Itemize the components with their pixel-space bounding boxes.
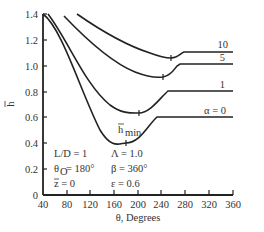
chart: 0 0.2 0.4 0.6 0.8 1.0 1.2 1.4 40 80 120 … (0, 0, 264, 232)
x-tick-label: 120 (82, 199, 98, 210)
x-tick-label: 80 (62, 199, 73, 210)
x-axis-label: θ, Degrees (116, 212, 161, 223)
x-tick-labels: 40 80 120 160 200 240 280 320 360 (38, 199, 241, 210)
curve-alpha-0 (43, 14, 233, 144)
hmin-annotation: h min (118, 124, 142, 138)
y-tick-label: 0.8 (25, 87, 38, 98)
y-axis-label: h (5, 101, 16, 107)
ld-annotation: L/D = 1 (54, 148, 87, 159)
y-tick-label: 0.2 (25, 164, 38, 175)
theta0-annotation: θ O = 180° (54, 163, 95, 177)
x-tick-label: 280 (177, 199, 193, 210)
svg-text:z = 0: z = 0 (54, 178, 75, 189)
y-tick-label: 0.4 (25, 138, 39, 149)
y-tick-label: 1.0 (25, 61, 38, 72)
svg-text:= 180°: = 180° (66, 163, 95, 174)
zbar-annotation: z = 0 (54, 178, 75, 189)
x-tick-label: 160 (106, 199, 122, 210)
beta-annotation: β = 360° (111, 163, 147, 174)
y-tick-labels: 0 0.2 0.4 0.6 0.8 1.0 1.2 1.4 (25, 9, 39, 201)
svg-text:h: h (5, 101, 16, 107)
x-tick-label: 240 (153, 199, 169, 210)
x-tick-label: 360 (225, 199, 241, 210)
curve-label-10: 10 (218, 39, 229, 50)
curve-label-1: 1 (220, 79, 225, 90)
y-tick-label: 0.6 (25, 112, 38, 123)
lambda-annotation: Λ = 1.0 (111, 148, 143, 159)
x-tick-label: 40 (38, 199, 49, 210)
x-tick-label: 200 (130, 199, 146, 210)
svg-text:θ: θ (54, 163, 59, 174)
svg-text:h: h (118, 124, 124, 135)
curve-label-alpha-0: α = 0 (204, 105, 226, 116)
x-tick-label: 320 (201, 199, 217, 210)
epsilon-annotation: ε = 0.6 (111, 178, 140, 189)
y-tick-label: 1.2 (25, 35, 38, 46)
curve-alpha-10 (77, 14, 233, 58)
svg-text:min: min (125, 127, 142, 138)
curve-label-5: 5 (220, 52, 225, 63)
y-tick-label: 1.4 (25, 9, 39, 20)
curve-alpha-5 (64, 16, 233, 77)
